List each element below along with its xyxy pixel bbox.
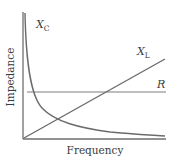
impedance-chart: XC XL R Frequency Impedance xyxy=(0,0,175,163)
series-xl-line xyxy=(24,59,165,138)
series-label-r: R xyxy=(156,78,165,91)
series-label-xl: XL xyxy=(136,45,150,60)
y-axis-title: Impedance xyxy=(4,48,16,107)
series-label-xc: XC xyxy=(35,18,50,33)
x-axis-title: Frequency xyxy=(67,144,124,156)
